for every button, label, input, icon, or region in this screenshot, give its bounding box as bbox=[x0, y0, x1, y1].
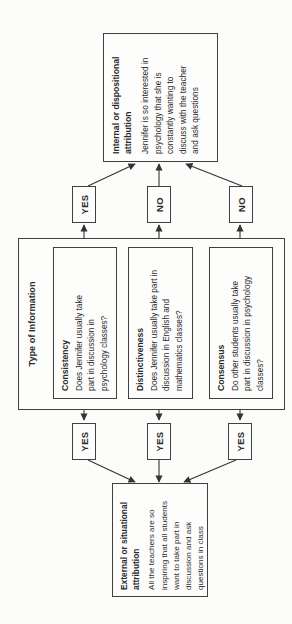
type-of-information-title: Type of Information bbox=[27, 239, 37, 409]
external-attribution-box: External or situational attribution All … bbox=[112, 483, 208, 597]
internal-attribution-box: Internal or dispositional attribution Je… bbox=[103, 33, 218, 162]
external-attribution-text: All the teachers are so inspiring that a… bbox=[146, 488, 207, 590]
answer-label: YES bbox=[79, 195, 90, 215]
distinctiveness-question: Does Jennifer usually take part in discu… bbox=[149, 253, 186, 391]
consensus-box: Consensus Do other students usually take… bbox=[209, 247, 273, 399]
answer-label: YES bbox=[154, 432, 165, 452]
internal-attribution-text: Jennifer is so interested in psychology … bbox=[139, 40, 201, 154]
page: External or situational attribution All … bbox=[0, 0, 292, 624]
answer-label: YES bbox=[235, 432, 246, 452]
consistency-title: Consistency bbox=[59, 253, 71, 391]
consensus-question: Do other students usually take part in d… bbox=[230, 253, 267, 391]
consistency-question: Does Jennifer usually take part in discu… bbox=[74, 253, 111, 391]
answer-box-yes-left-2: YES bbox=[147, 423, 171, 460]
arrow-yes-left-3-to-external bbox=[184, 460, 236, 482]
consistency-box: Consistency Does Jennifer usually take p… bbox=[53, 247, 117, 399]
answer-label: NO bbox=[236, 197, 247, 212]
type-of-information-box: Type of Information Consistency Does Jen… bbox=[18, 238, 285, 410]
answer-label: YES bbox=[79, 432, 90, 452]
consensus-title: Consensus bbox=[215, 253, 227, 391]
external-attribution-title: External or situational attribution bbox=[118, 488, 142, 590]
distinctiveness-title: Distinctiveness bbox=[134, 253, 146, 391]
answer-label: NO bbox=[154, 197, 165, 212]
answer-box-no-1: NO bbox=[147, 186, 171, 223]
attribution-flowchart: External or situational attribution All … bbox=[0, 0, 292, 624]
answer-box-yes-left-1: YES bbox=[72, 423, 96, 460]
arrow-no-2-to-internal bbox=[186, 164, 242, 186]
arrow-yes-left-1-to-external bbox=[88, 460, 135, 482]
answer-box-yes-left-3: YES bbox=[228, 423, 252, 460]
arrow-yes-right-to-internal bbox=[88, 164, 135, 186]
answer-box-yes-right: YES bbox=[72, 186, 96, 223]
answer-box-no-2: NO bbox=[229, 186, 253, 223]
internal-attribution-title: Internal or dispositional attribution bbox=[110, 40, 134, 154]
distinctiveness-box: Distinctiveness Does Jennifer usually ta… bbox=[128, 247, 193, 399]
